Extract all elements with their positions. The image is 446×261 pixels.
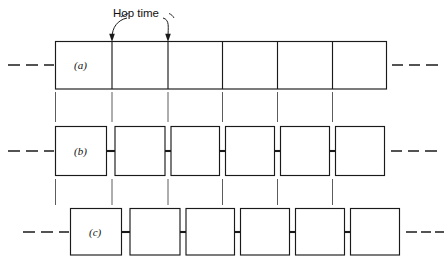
row-c-label: (c) — [89, 226, 102, 239]
hop-time-arrow-left-head — [109, 34, 115, 42]
row-b-label: (b) — [74, 145, 87, 158]
row-a-label: (a) — [74, 59, 87, 72]
row-b: (b) — [8, 127, 437, 176]
row-b-box — [281, 127, 330, 176]
hop-time-arrow-right-head — [165, 34, 171, 42]
diagram-canvas: Hop time — [0, 0, 446, 261]
row-c-box — [351, 209, 400, 256]
hop-time-tail-right — [169, 14, 174, 19]
row-c-box — [241, 209, 290, 256]
row-c: (c) — [23, 209, 444, 256]
row-c-box — [130, 209, 180, 256]
hop-time-annotation: Hop time — [109, 7, 174, 43]
row-c-box — [296, 209, 345, 256]
guide-lines-a-to-b — [56, 92, 333, 122]
row-b-box — [171, 127, 220, 176]
frequency-hopping-diagram: Hop time — [0, 0, 446, 261]
row-b-box — [336, 127, 385, 176]
row-c-box — [186, 209, 235, 256]
row-b-box — [115, 127, 165, 176]
row-a-strip — [56, 42, 387, 90]
row-a: (a) — [8, 42, 438, 90]
guide-lines-b-to-c — [56, 179, 333, 205]
hop-time-label: Hop time — [113, 7, 159, 19]
row-b-box — [226, 127, 275, 176]
